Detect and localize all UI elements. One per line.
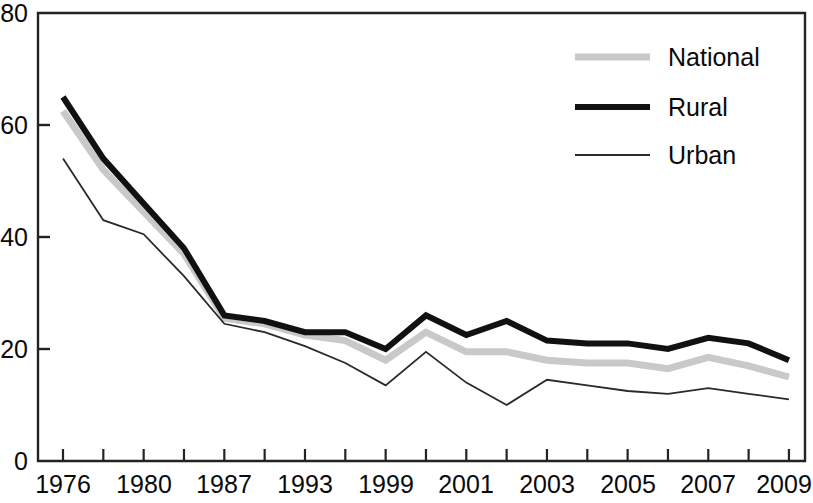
y-tick-label-0: 0 (0, 447, 28, 476)
x-tick-label-2007: 2007 (680, 470, 736, 499)
x-tick-label-1987: 1987 (196, 470, 252, 499)
x-tick-label-2001: 2001 (438, 470, 494, 499)
x-tick-label-2005: 2005 (600, 470, 656, 499)
y-tick-label-60: 60 (0, 111, 28, 140)
x-tick-label-2009: 2009 (756, 470, 812, 499)
x-axis-ticks (63, 449, 789, 461)
x-tick-label-1976: 1976 (35, 470, 91, 499)
y-tick-label-80: 80 (0, 0, 28, 28)
x-tick-label-1999: 1999 (358, 470, 414, 499)
legend-label-rural: Rural (668, 93, 728, 122)
line-chart-figure: 80 60 40 20 0 1976 1980 1987 1993 1999 2… (0, 0, 813, 503)
x-tick-label-1980: 1980 (116, 470, 172, 499)
y-axis-ticks (38, 125, 50, 349)
legend-label-urban: Urban (668, 141, 736, 170)
legend-swatches (575, 57, 650, 155)
legend-label-national: National (668, 43, 760, 72)
series-line-rural (63, 97, 789, 360)
y-tick-label-40: 40 (0, 223, 28, 252)
y-tick-label-20: 20 (0, 335, 28, 364)
x-tick-label-2003: 2003 (519, 470, 575, 499)
plot-area (0, 0, 813, 503)
plot-frame (38, 13, 805, 461)
x-tick-label-1993: 1993 (277, 470, 333, 499)
